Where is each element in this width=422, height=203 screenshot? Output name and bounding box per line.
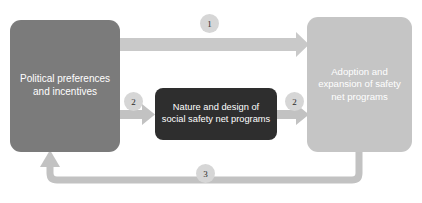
step-badge-1: 1: [200, 14, 219, 33]
step-badge-3: 3: [196, 164, 215, 183]
node-political-preferences: Political preferences and incentives: [10, 20, 120, 152]
edge-3-arrowhead: [40, 150, 60, 167]
node-nature-and-design: Nature and design of social safety net p…: [155, 88, 277, 140]
node-adoption-label: Adoption and expansion of safety net pro…: [312, 66, 407, 103]
edge-1-arrow: [120, 32, 309, 57]
step-badge-2-left: 2: [124, 92, 143, 111]
node-adoption-and-expansion: Adoption and expansion of safety net pro…: [307, 17, 412, 152]
diagram-canvas: Political preferences and incentives Nat…: [0, 0, 422, 203]
node-political-label: Political preferences and incentives: [17, 73, 113, 99]
step-badge-2-right: 2: [285, 92, 304, 111]
node-nature-label: Nature and design of social safety net p…: [161, 102, 271, 126]
